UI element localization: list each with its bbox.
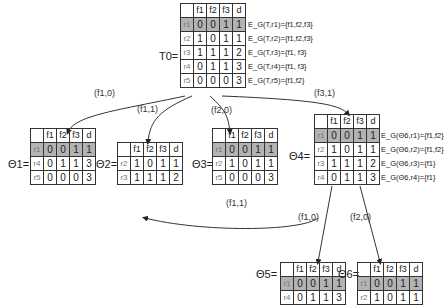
theta5-label: Θ5=: [256, 268, 277, 280]
table-theta2: f1f2f3d r21011 r31112: [117, 142, 183, 185]
edge-label-f3-1: (f3,1): [314, 88, 335, 98]
table-t: f1f2f3d r10011 r21011 r31112 r40113 r500…: [180, 3, 246, 88]
edge-label-f1-0: (f1,0): [94, 88, 115, 98]
table-theta1: f1f2f3d r10011 r40113 r50003: [30, 128, 96, 185]
t-annotations: E_G(T,r1)={f1,f2,f3}E_G(T,r2)={f1,f2,f3}…: [248, 18, 313, 88]
table-theta3: f1f2f3d r10011 r21011 r50003: [212, 128, 278, 185]
theta4-annotations: E_G(Θ6,r1)={f1,f2}E_G(Θ6,r2)={f1,f2}E_G(…: [381, 129, 444, 185]
theta2-label: Θ2=: [96, 158, 117, 170]
edge-label-back-f1-1: (f1,1): [226, 198, 247, 208]
table-theta4: f1f2f3d r10011 r21011 r31112 r40113: [314, 114, 380, 185]
edge-label-theta6: (f2,0): [350, 212, 371, 222]
theta3-label: Θ3=: [192, 158, 213, 170]
table-theta6: f1f2f3d r10011 r21011: [357, 262, 423, 305]
edge-label-f1-1: (f1,1): [137, 104, 158, 114]
theta4-label: Θ4=: [289, 150, 310, 162]
edge-label-f2-0: (f2,0): [211, 105, 232, 115]
theta1-label: Θ1=: [8, 158, 29, 170]
t-label: T0=: [159, 50, 178, 62]
theta6-label: Θ6=: [338, 268, 359, 280]
edge-label-theta5: (f1,0): [298, 212, 319, 222]
table-theta5: f1f2f3d r10011 r40113: [280, 262, 346, 305]
